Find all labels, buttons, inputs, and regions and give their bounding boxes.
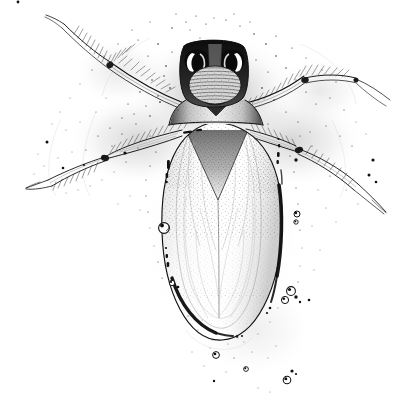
bubble-right-low [281,296,288,303]
bubble-left-abdomen [159,223,170,234]
head [176,36,252,112]
speck-right-upper [294,158,297,161]
bubble-right-small [294,295,297,298]
bubble-below-mid [244,367,249,372]
speck-corner-top-left [17,1,20,4]
illustration-plate [0,0,417,408]
bubble-right-tiny [299,301,301,303]
bubble-far-right [308,299,311,302]
beetle-illustration [0,0,417,408]
bubble-below-right [283,376,291,384]
bubble-right-mid [287,287,296,296]
bubble-below-left [213,352,220,359]
bubble-left-tiny [177,286,180,289]
vertex [208,44,222,66]
bubble-left-low [169,280,174,285]
bubble-below-right-small [290,369,293,372]
bubble-bottom-speck [213,380,215,382]
bubble-below-right-tiny [295,373,297,375]
